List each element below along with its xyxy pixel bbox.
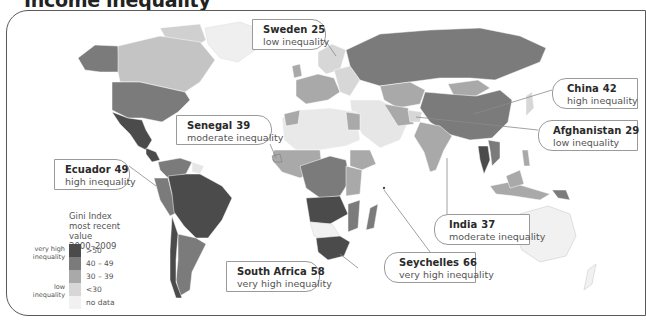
callout-country: Ecuador	[65, 164, 111, 175]
region-south-africa	[316, 236, 350, 260]
region-russia	[346, 28, 546, 86]
region-horn-of-africa	[350, 150, 376, 170]
legend: Gini Index most recent value 2000–2009 v…	[20, 211, 140, 311]
region-philippines	[522, 150, 530, 166]
callout-value: 42	[603, 83, 617, 94]
region-egypt	[346, 112, 360, 130]
callout-description: moderate inequality	[187, 132, 263, 144]
legend-swatch-very-high	[69, 244, 81, 257]
region-central-america	[146, 148, 160, 162]
region-mozambique	[348, 200, 360, 232]
region-seychelles	[383, 187, 385, 189]
callout-sweden[interactable]: Sweden25 low inequality	[252, 19, 326, 50]
region-guiana	[192, 162, 204, 174]
callout-south-africa[interactable]: South Africa58 very high inequality	[226, 261, 320, 292]
callout-senegal[interactable]: Senegal39 moderate inequality	[176, 115, 272, 145]
region-mongolia	[448, 80, 490, 96]
region-new-zealand	[584, 264, 596, 290]
callout-description: low inequality	[553, 137, 629, 149]
region-angola-zambia	[306, 196, 348, 224]
region-argentina	[176, 234, 206, 296]
callout-country: Seychelles	[399, 257, 459, 268]
callout-china[interactable]: China42 high inequality	[552, 78, 638, 109]
callout-value: 49	[115, 164, 129, 175]
legend-label: 40 – 49	[86, 259, 114, 268]
legend-label: >50	[86, 246, 102, 255]
legend-swatch-high	[69, 257, 81, 270]
callout-india[interactable]: India37 moderate inequality	[434, 214, 530, 245]
callout-country: South Africa	[237, 266, 307, 277]
region-afghanistan	[408, 110, 422, 122]
region-brazil	[168, 174, 232, 238]
legend-side-low: low inequality	[25, 283, 65, 299]
callout-description: moderate inequality	[449, 231, 521, 243]
region-morocco	[284, 110, 300, 126]
callout-country: Afghanistan	[553, 125, 621, 136]
callout-country: India	[449, 219, 477, 230]
legend-swatch-moderate	[69, 270, 81, 283]
region-alaska	[78, 45, 120, 72]
callout-description: very high inequality	[399, 269, 467, 281]
leader-seychelles	[384, 190, 430, 252]
region-madagascar	[366, 204, 378, 230]
callout-ecuador[interactable]: Ecuador49 high inequality	[54, 159, 130, 190]
legend-label: no data	[86, 298, 115, 307]
region-indochina	[488, 140, 500, 166]
legend-side-high: very high inequality	[25, 245, 65, 261]
leader-south-africa	[340, 254, 358, 268]
callout-description: high inequality	[567, 95, 629, 107]
callout-description: very high inequality	[237, 278, 311, 290]
region-thailand	[478, 146, 490, 174]
callout-country: Sweden	[263, 24, 307, 35]
callout-value: 58	[311, 266, 325, 277]
region-uk	[292, 64, 302, 78]
callout-description: high inequality	[65, 176, 121, 188]
callout-country: Senegal	[187, 120, 232, 131]
legend-label: 30 – 39	[86, 272, 114, 281]
legend-swatch-no-data	[69, 296, 81, 309]
region-western-europe	[296, 74, 340, 104]
region-png	[552, 190, 570, 200]
legend-label: <30	[86, 285, 102, 294]
callout-value: 39	[236, 120, 250, 131]
callout-seychelles[interactable]: Seychelles66 very high inequality	[384, 252, 476, 283]
callout-value: 25	[311, 24, 325, 35]
region-east-africa	[346, 166, 362, 196]
callout-value: 37	[481, 219, 495, 230]
callout-country: China	[567, 83, 599, 94]
legend-swatch-low	[69, 283, 81, 296]
callout-value: 66	[463, 257, 477, 268]
callout-value: 29	[625, 125, 639, 136]
callout-afghanistan[interactable]: Afghanistan29 low inequality	[538, 120, 638, 151]
callout-description: low inequality	[263, 36, 317, 48]
